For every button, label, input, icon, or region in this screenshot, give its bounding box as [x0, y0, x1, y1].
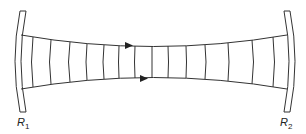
wavefronts [32, 37, 275, 87]
arrow-bottom-icon [140, 75, 148, 82]
resonator-diagram: R1 R2 [0, 0, 306, 134]
beam-edge-bottom [21, 78, 287, 90]
mirror-label-r2: R2 [280, 116, 293, 131]
beam-edge-top [21, 35, 287, 47]
left-mirror [15, 11, 26, 112]
right-mirror [284, 11, 295, 112]
arrow-top-icon [125, 42, 133, 49]
mirror-label-r1: R1 [17, 116, 30, 131]
